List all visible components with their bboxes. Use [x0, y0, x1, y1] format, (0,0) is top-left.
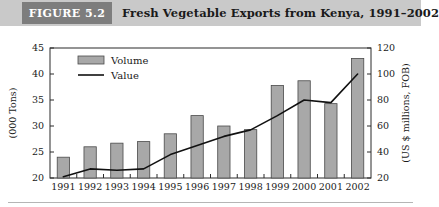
x-axis-tick-label-2001: 2001: [319, 181, 343, 192]
bar-2002: [351, 58, 363, 178]
y-axis-title: (000 Tons): [7, 88, 18, 139]
figure-number-badge: FIGURE 5.2: [22, 2, 112, 24]
y2-axis-tick-label-0: 20: [377, 172, 389, 183]
y2-axis-title: (US $ millions, FOB): [400, 63, 411, 162]
x-axis-tick-label-2000: 2000: [292, 181, 316, 192]
x-axis-tick-label-1993: 1993: [105, 181, 129, 192]
x-axis-tick-label-1994: 1994: [132, 181, 156, 192]
bar-1999: [271, 85, 283, 178]
x-axis-tick-label-1998: 1998: [239, 181, 263, 192]
bar-1993: [111, 143, 123, 178]
x-axis-tick-label-1992: 1992: [78, 181, 102, 192]
x-axis-tick-label-1997: 1997: [212, 181, 236, 192]
chart-svg: 20253035404520406080100120(000 Tons)(US …: [0, 26, 421, 201]
y2-axis-tick-label-5: 120: [377, 42, 395, 53]
figure-header-band: FIGURE 5.2 Fresh Vegetable Exports from …: [0, 0, 421, 26]
bar-2000: [298, 81, 310, 178]
y2-axis-tick-label-2: 60: [377, 120, 389, 131]
figure-bottom-rule: [8, 202, 413, 203]
legend-label-volume: Volume: [110, 55, 148, 66]
bar-1994: [137, 142, 149, 178]
figure-title: Fresh Vegetable Exports from Kenya, 1991…: [122, 2, 439, 24]
x-axis-tick-label-1991: 1991: [51, 181, 75, 192]
x-axis-tick-label-2002: 2002: [346, 181, 370, 192]
bar-1992: [84, 147, 96, 178]
y2-axis-tick-label-4: 100: [377, 68, 395, 79]
bar-1995: [164, 134, 176, 178]
bar-1997: [218, 126, 230, 178]
y2-axis-tick-label-1: 40: [377, 146, 389, 157]
x-axis-tick-label-1996: 1996: [185, 181, 209, 192]
y-axis-tick-label-5: 45: [32, 42, 44, 53]
y-axis-tick-label-3: 35: [32, 94, 44, 105]
legend-swatch-volume: [78, 56, 104, 64]
x-axis-tick-label-1995: 1995: [158, 181, 182, 192]
legend-label-value: Value: [110, 70, 139, 81]
y-axis-tick-label-0: 20: [32, 172, 44, 183]
chart-plot-area: 20253035404520406080100120(000 Tons)(US …: [0, 26, 421, 201]
y-axis-tick-label-1: 25: [32, 146, 44, 157]
plot-frame: [50, 48, 371, 178]
x-axis-tick-label-1999: 1999: [265, 181, 289, 192]
bar-2001: [325, 104, 337, 178]
y-axis-tick-label-2: 30: [32, 120, 44, 131]
y2-axis-tick-label-3: 80: [377, 94, 389, 105]
y-axis-tick-label-4: 40: [32, 68, 44, 79]
bar-1998: [244, 130, 256, 178]
